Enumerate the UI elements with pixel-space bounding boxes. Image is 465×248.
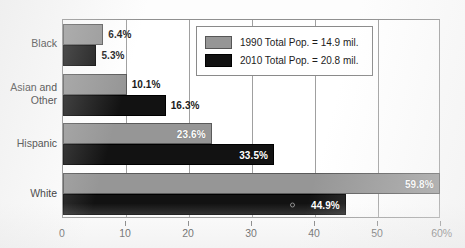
axis-tick-mark [314, 221, 315, 226]
legend-item-label: 1990 Total Pop. = 14.9 mil. [240, 37, 359, 48]
axis-tick-label: 40 [308, 227, 320, 239]
axis-tick-label: 0 [59, 227, 65, 239]
category-label: Black [31, 37, 57, 50]
bar-row: 59.8% [63, 173, 441, 194]
axis-tick-label: 60% [431, 227, 452, 239]
bar-group: 10.1%16.3% [63, 74, 439, 116]
bar: 44.9% [63, 194, 346, 215]
bar: 59.8% [63, 173, 440, 194]
bar-row: 10.1% [63, 74, 441, 95]
category-axis-labels: BlackAsian and OtherHispanicWhite [0, 19, 57, 218]
legend-item: 2010 Total Pop. = 20.8 mil. [197, 51, 372, 69]
bar: 23.6% [63, 123, 212, 144]
axis-tick-mark [251, 221, 252, 226]
axis-tick-label: 50 [371, 227, 383, 239]
bar: 33.5% [63, 144, 274, 165]
axis-tick-mark [125, 221, 126, 226]
axis-tick-label: 10 [119, 227, 131, 239]
axis-tick-mark [188, 221, 189, 226]
axis-tick-label: 20 [182, 227, 194, 239]
bar-row: 23.6% [63, 123, 441, 144]
bar-row: 44.9% [63, 194, 441, 215]
category-label: White [30, 187, 57, 200]
bar-value-label: 44.9% [311, 199, 340, 210]
bar: 6.4% [63, 24, 103, 45]
legend-item-label: 2010 Total Pop. = 20.8 mil. [240, 55, 359, 66]
value-axis-labels: 0102030405060% [0, 221, 465, 241]
bar-value-label: 6.4% [108, 29, 131, 40]
bar: 5.3% [63, 45, 96, 66]
bar: 10.1% [63, 74, 127, 95]
bar: 16.3% [63, 95, 166, 116]
axis-tick-mark [440, 221, 441, 226]
black-swatch-icon [205, 54, 232, 67]
bar-value-label: 23.6% [177, 128, 206, 139]
axis-tick-label: 30 [245, 227, 257, 239]
bar-value-label: 16.3% [171, 100, 200, 111]
bar-value-label: 59.8% [405, 178, 434, 189]
legend: 1990 Total Pop. = 14.9 mil. 2010 Total P… [196, 26, 373, 76]
grouped-bar-chart: 6.4%5.3%10.1%16.3%23.6%33.5%59.8%44.9% B… [0, 0, 465, 248]
category-label: Hispanic [17, 137, 57, 150]
gray-swatch-icon [205, 36, 232, 49]
bar-group: 59.8%44.9% [63, 173, 439, 215]
bar-group: 23.6%33.5% [63, 123, 439, 165]
bar-row: 16.3% [63, 95, 441, 116]
bar-row: 33.5% [63, 144, 441, 165]
bar-value-label: 10.1% [132, 79, 161, 90]
scan-speck [290, 202, 295, 207]
legend-item: 1990 Total Pop. = 14.9 mil. [197, 33, 372, 51]
category-label: Asian and Other [10, 81, 57, 107]
axis-tick-mark [377, 221, 378, 226]
bar-value-label: 5.3% [101, 50, 124, 61]
bar-value-label: 33.5% [239, 149, 268, 160]
